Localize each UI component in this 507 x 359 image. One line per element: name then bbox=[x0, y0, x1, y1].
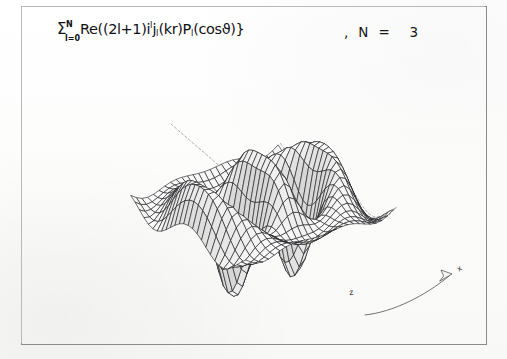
figure-page: ΣNl=0Re((2l+1)iljl(kr)Pl(cosϑ)} , N = 3 … bbox=[0, 0, 507, 359]
formula-kr: (kr)P bbox=[158, 21, 190, 37]
sum-lower-limit: l=0 bbox=[65, 35, 80, 43]
formula-body: Re((2l+1)i bbox=[80, 21, 150, 37]
summation-limits: Nl=0 bbox=[66, 33, 67, 34]
sum-upper-limit: N bbox=[66, 21, 73, 29]
parameter-n-value: , N = 3 bbox=[344, 24, 419, 40]
figure-frame-border bbox=[21, 6, 487, 345]
formula-title: ΣNl=0Re((2l+1)iljl(kr)Pl(cosϑ)} bbox=[57, 21, 244, 37]
formula-tail: (cosϑ)} bbox=[193, 21, 244, 37]
